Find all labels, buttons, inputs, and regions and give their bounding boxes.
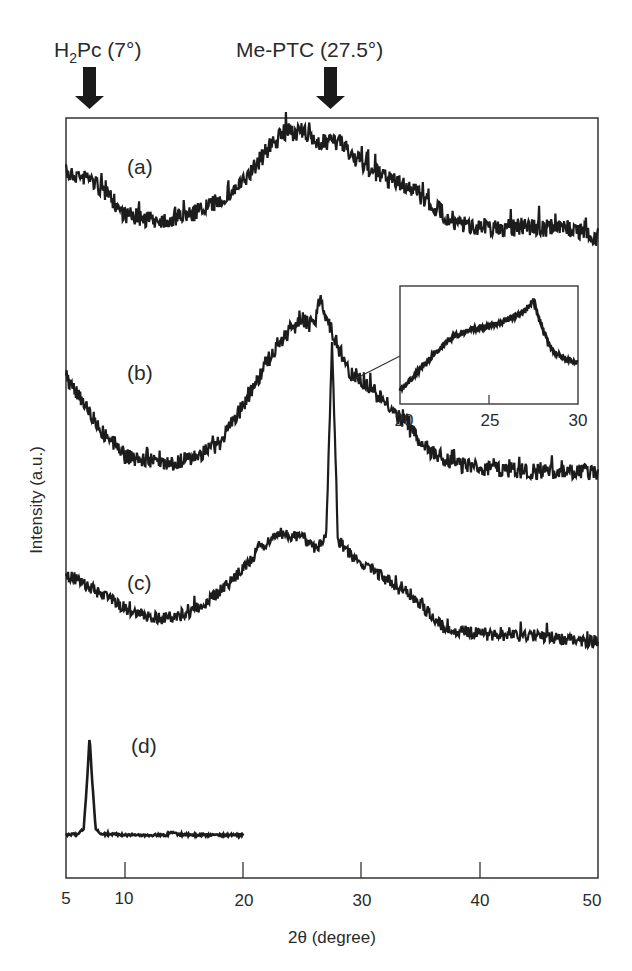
svg-text:20: 20 bbox=[235, 891, 254, 910]
arrow-down-icon-meptc bbox=[316, 67, 345, 109]
inset-tick-25: 25 bbox=[481, 411, 500, 430]
curve-label-a: (a) bbox=[127, 155, 153, 178]
svg-text:30: 30 bbox=[353, 891, 372, 910]
curve-label-d: (d) bbox=[131, 734, 157, 757]
svg-text:10: 10 bbox=[115, 889, 134, 908]
annotation-meptc: Me-PTC (27.5°) bbox=[236, 38, 383, 61]
svg-text:5: 5 bbox=[61, 889, 70, 908]
inset-pointer-line bbox=[351, 356, 400, 381]
curve-a bbox=[66, 112, 598, 246]
x-axis-label: 2θ (degree) bbox=[288, 928, 376, 947]
inset-plot: 20 25 30 bbox=[351, 286, 587, 430]
xrd-curves bbox=[66, 112, 598, 836]
x-axis-ticks bbox=[125, 862, 480, 878]
xrd-chart: H2Pc (7°) Me-PTC (27.5°) 5 10 20 30 40 5… bbox=[0, 0, 632, 971]
y-axis-label: Intensity (a.u.) bbox=[27, 446, 46, 554]
curve-label-b: (b) bbox=[127, 361, 153, 384]
inset-tick-30: 30 bbox=[569, 411, 588, 430]
inset-tick-20: 20 bbox=[395, 411, 414, 430]
annotation-h2pc: H2Pc (7°) bbox=[54, 38, 141, 66]
svg-text:40: 40 bbox=[471, 891, 490, 910]
svg-text:50: 50 bbox=[583, 891, 602, 910]
curve-label-c: (c) bbox=[127, 571, 152, 594]
x-axis-tick-labels: 5 10 20 30 40 50 bbox=[61, 889, 601, 910]
arrow-down-icon-h2pc bbox=[75, 67, 104, 109]
